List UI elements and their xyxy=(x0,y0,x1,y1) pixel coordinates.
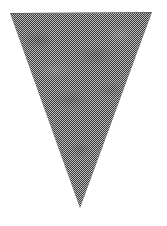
figure-canvas xyxy=(0,0,167,226)
triangle-dither-fill xyxy=(0,0,167,226)
inverted-triangle xyxy=(0,0,167,226)
